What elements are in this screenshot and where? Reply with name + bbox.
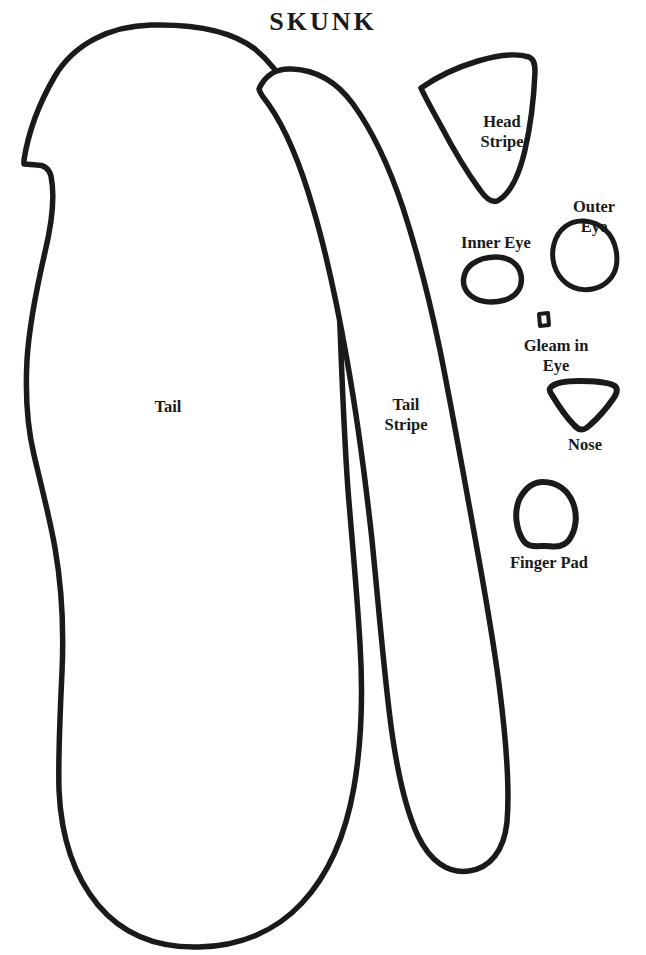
- inner-eye-outline-shape: [463, 257, 521, 302]
- label-nose: Nose: [568, 435, 602, 455]
- pattern-page: SKUNK Tail Tail Stripe Head Stripe Outer…: [0, 0, 646, 955]
- pattern-shapes-canvas: [0, 0, 646, 955]
- gleam-in-eye-outline-shape: [539, 313, 549, 326]
- label-tail: Tail: [155, 397, 182, 417]
- finger-pad-outline-shape: [516, 482, 576, 546]
- label-head-stripe: Head Stripe: [480, 112, 523, 152]
- label-tail-stripe: Tail Stripe: [384, 395, 427, 435]
- label-gleam-in-eye: Gleam in Eye: [511, 336, 601, 376]
- label-outer-eye: Outer Eye: [568, 197, 620, 237]
- nose-outline-shape: [550, 381, 617, 430]
- label-finger-pad: Finger Pad: [510, 553, 588, 573]
- label-inner-eye: Inner Eye: [461, 233, 531, 253]
